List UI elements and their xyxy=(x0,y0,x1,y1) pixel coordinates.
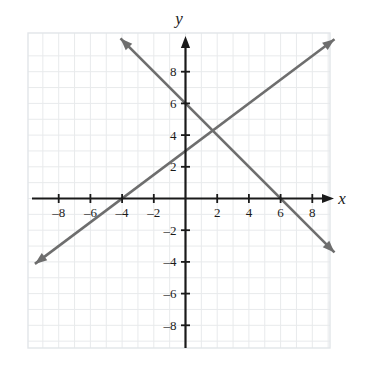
x-tick-label: 8 xyxy=(309,205,316,220)
y-tick-label: –8 xyxy=(163,318,177,333)
coordinate-plane-figure: –8–6–4–22468–8–6–4–22468 x y xyxy=(0,0,371,377)
plot-background xyxy=(28,33,330,348)
x-tick-label: –4 xyxy=(115,205,130,220)
y-tick-label: 8 xyxy=(170,64,177,79)
x-tick-label: –6 xyxy=(83,205,98,220)
y-tick-label: –6 xyxy=(163,286,178,301)
y-tick-label: 4 xyxy=(170,128,177,143)
x-tick-label: 6 xyxy=(277,205,284,220)
x-axis-label: x xyxy=(337,189,346,208)
graph-canvas: –8–6–4–22468–8–6–4–22468 x y xyxy=(0,0,371,377)
x-tick-label: 2 xyxy=(214,205,221,220)
y-tick-label: –4 xyxy=(163,254,178,269)
x-tick-label: –2 xyxy=(146,205,160,220)
x-tick-label: 4 xyxy=(246,205,253,220)
x-tick-label: –8 xyxy=(51,205,65,220)
y-tick-label: –2 xyxy=(163,223,177,238)
y-tick-label: 6 xyxy=(170,96,177,111)
y-axis-label: y xyxy=(173,9,183,28)
y-tick-label: 2 xyxy=(170,159,177,174)
